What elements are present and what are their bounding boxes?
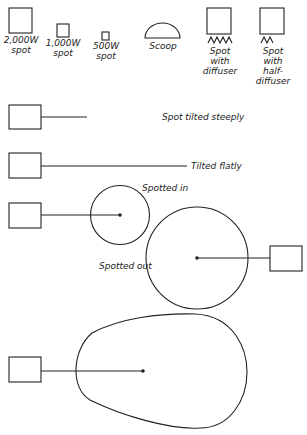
label-diffuser: Spotwithdiffuser bbox=[197, 46, 243, 76]
label-tilted-flatly: Tilted flatly bbox=[191, 161, 242, 171]
spot-1000w-icon bbox=[57, 24, 69, 37]
half-diffuser-zigzag-icon bbox=[261, 37, 273, 43]
diffuser-zigzag-icon bbox=[208, 37, 232, 43]
label-half-diffuser: Spotwithhalf-diffuser bbox=[250, 46, 296, 86]
label-500w: 500Wspot bbox=[86, 41, 126, 61]
half-diffuser-spot-icon bbox=[260, 8, 284, 34]
spot-2000w-icon bbox=[9, 8, 32, 33]
spot-teardrop-icon bbox=[9, 357, 41, 382]
label-1000w: 1,000Wspot bbox=[42, 38, 84, 58]
spot-500w-icon bbox=[102, 32, 109, 40]
diffuser-spot-icon bbox=[207, 8, 231, 34]
label-2000w: 2,000Wspot bbox=[0, 35, 42, 55]
spot-out-icon bbox=[270, 246, 302, 271]
label-scoop: Scoop bbox=[142, 41, 184, 51]
label-tilted-steeply: Spot tilted steeply bbox=[162, 112, 244, 122]
spot-steep-icon bbox=[9, 105, 41, 129]
spot-in-icon bbox=[9, 203, 41, 228]
label-spotted-in: Spotted in bbox=[142, 183, 188, 193]
spot-flat-icon bbox=[9, 153, 41, 178]
label-spotted-out: Spotted out bbox=[99, 261, 152, 271]
scoop-icon bbox=[145, 23, 180, 38]
